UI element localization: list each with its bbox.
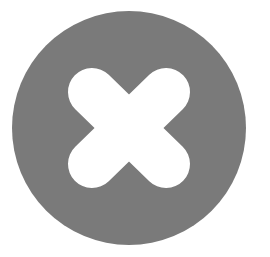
close-circle-button[interactable]: Close — [0, 0, 270, 257]
close-circle-icon — [0, 0, 270, 257]
